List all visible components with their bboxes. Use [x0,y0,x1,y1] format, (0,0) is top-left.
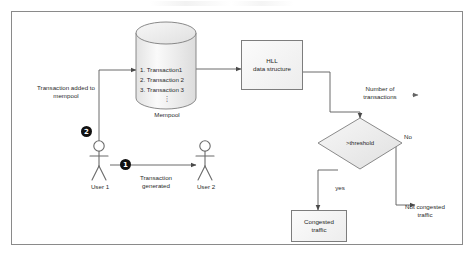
diagram-canvas: 1. Transaction1 2. Transaction 2 3. Tran… [0,0,472,263]
edge-label-yes: yes [325,184,355,192]
step-badge-2: 2 [81,126,92,137]
user1-label: User 1 [78,183,122,191]
scan-artifact [150,1,330,6]
mempool-ellipsis: ⋮ [136,95,198,104]
mempool-item-1: 1. Transaction1 [136,66,202,74]
label-transaction-added-to-mempool: Transaction added to mempool [18,84,114,100]
step-badge-1: 1 [120,159,131,170]
mempool-item-2: 2. Transaction 2 [136,76,202,84]
label-number-of-transactions: Number of transactions [345,85,415,101]
label-not-congested-traffic: Not congested traffic [388,203,462,219]
edge-label-no: No [396,133,420,141]
congested-traffic-node[interactable]: Congested traffic [291,210,347,242]
mempool-item-3: 3. Transaction 3 [136,86,202,94]
user2-label: User 2 [184,183,228,191]
hll-data-structure-node[interactable]: HLL data structure [241,40,303,90]
decision-node-label[interactable]: >threshold [325,140,395,146]
label-transaction-generated: Transaction generated [123,174,189,190]
mempool-caption: Mempool [136,111,198,119]
